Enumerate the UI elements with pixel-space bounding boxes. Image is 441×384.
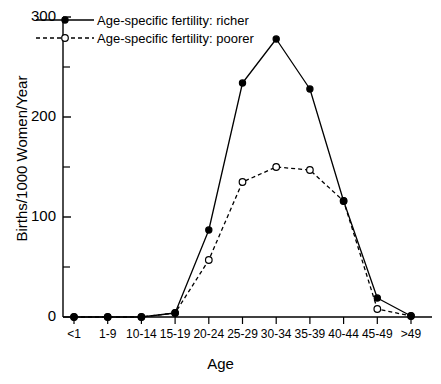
y-tick-label: 200 [16,107,56,124]
legend-label-richer: Age-specific fertility: richer [97,13,249,28]
y-axis-title: Births/1000 Women/Year [13,59,30,259]
series-poorer-path [71,164,415,321]
y-axis-ticks [63,17,71,317]
x-tick-label: >49 [388,327,434,341]
y-tick-label: 100 [16,207,56,224]
fertility-line-chart: Births/1000 Women/Year Age 0100200300 <1… [0,0,441,384]
series-richer-path [71,36,414,320]
x-axis-ticks [74,317,411,324]
y-tick-label: 300 [16,7,56,24]
legend-label-poorer: Age-specific fertility: poorer [97,31,254,46]
y-tick-label: 0 [16,307,56,324]
x-axis-title: Age [0,355,441,372]
